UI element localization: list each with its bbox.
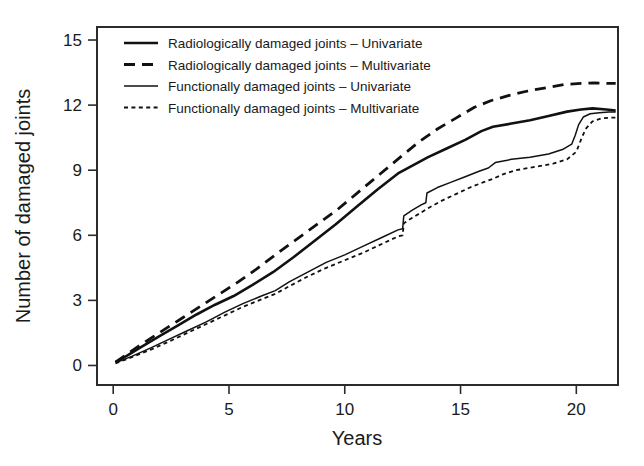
line-chart: 03691215 05101520 Radiologically damaged… <box>0 0 644 466</box>
x-tick-label: 10 <box>335 400 354 419</box>
y-tick-label: 15 <box>63 31 82 50</box>
y-tick-label: 6 <box>73 226 82 245</box>
y-tick-label: 12 <box>63 96 82 115</box>
legend-label-1: Radiologically damaged joints – Multivar… <box>168 58 431 73</box>
x-axis-title: Years <box>332 427 382 449</box>
y-axis-title: Number of damaged joints <box>12 89 34 324</box>
y-tick-label: 9 <box>73 161 82 180</box>
legend-label-0: Radiologically damaged joints – Univaria… <box>168 36 422 51</box>
x-tick-label: 0 <box>108 400 117 419</box>
y-tick-label: 0 <box>73 356 82 375</box>
legend-label-2: Functionally damaged joints – Univariate <box>168 79 411 94</box>
y-tick-label: 3 <box>73 291 82 310</box>
chart-figure: 03691215 05101520 Radiologically damaged… <box>0 0 644 466</box>
x-tick-label: 20 <box>567 400 586 419</box>
x-tick-label: 5 <box>224 400 233 419</box>
x-tick-label: 15 <box>451 400 470 419</box>
legend-label-3: Functionally damaged joints – Multivaria… <box>168 101 419 116</box>
